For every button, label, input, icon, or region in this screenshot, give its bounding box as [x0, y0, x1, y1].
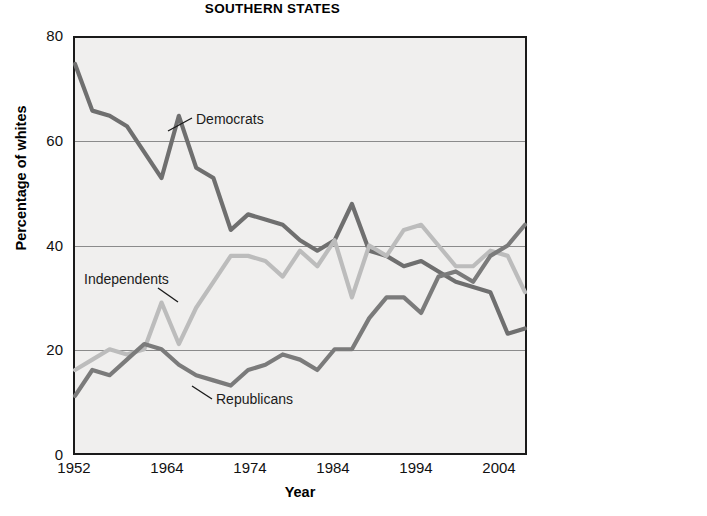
y-tick-20: 20: [23, 342, 63, 357]
plot-area: [73, 36, 527, 455]
chart-panel-southern-states: SOUTHERN STATES Percentage of whites Yea…: [0, 0, 580, 516]
y-tick-80: 80: [23, 28, 63, 43]
x-tick-1994: 1994: [386, 460, 446, 475]
series-line-democrats: [75, 64, 525, 334]
x-tick-1952: 1952: [44, 460, 104, 475]
series-lines: [75, 38, 525, 453]
series-label-independents: Independents: [84, 272, 169, 286]
x-tick-1974: 1974: [220, 460, 280, 475]
series-label-democrats: Democrats: [196, 112, 264, 126]
y-tick-40: 40: [23, 238, 63, 253]
x-tick-1964: 1964: [137, 460, 197, 475]
x-tick-1984: 1984: [303, 460, 363, 475]
series-label-republicans: Republicans: [216, 392, 293, 406]
y-axis-title: Percentage of whites: [13, 103, 29, 253]
chart-panel-right-cropped: Percentage of whites 80 60 40 20 0 1952: [580, 0, 707, 516]
y-tick-60: 60: [23, 133, 63, 148]
x-axis-title: Year: [73, 484, 527, 500]
chart-title: SOUTHERN STATES: [150, 1, 395, 16]
figure-container: SOUTHERN STATES Percentage of whites Yea…: [0, 0, 707, 516]
x-tick-2004: 2004: [469, 460, 529, 475]
